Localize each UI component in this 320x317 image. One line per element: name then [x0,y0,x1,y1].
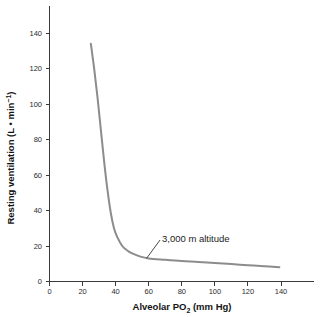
x-axis-ticks: 0 20 40 60 80 100 120 140 [47,282,287,297]
y-axis-ticks: 0 20 40 60 80 100 120 140 [29,29,49,287]
x-axis-title-main: Alveolar PO [133,301,187,312]
y-tick-label: 60 [34,171,42,180]
x-tick-label: 60 [145,287,153,296]
y-axis-title-superscript: −1 [5,95,12,103]
ventilation-po2-chart: Resting ventilation (L • min−1) 0 20 40 … [0,0,320,317]
y-axis-title: Resting ventilation (L • min−1) [5,91,16,224]
x-axis-title-tail: (mm Hg) [190,301,231,312]
x-tick-label: 0 [47,287,51,296]
x-tick-label: 120 [242,287,255,296]
y-tick-label: 0 [38,277,42,286]
x-tick-label: 100 [209,287,222,296]
x-axis-title: Alveolar PO2 (mm Hg) [133,301,232,314]
y-tick-label: 100 [29,100,42,109]
y-tick-label: 40 [34,206,42,215]
x-tick-label: 40 [111,287,119,296]
y-tick-label: 140 [29,29,42,38]
annotation-label-altitude: 3,000 m altitude [162,233,230,244]
x-tick-label: 20 [78,287,86,296]
y-axis-title-tail: ) [5,91,16,94]
y-tick-label: 80 [34,135,42,144]
chart-figure: Resting ventilation (L • min−1) 0 20 40 … [0,0,320,317]
y-tick-label: 20 [34,242,42,251]
annotation-leader-line [147,240,161,259]
y-axis-title-main: Resting ventilation (L • min [5,102,16,224]
x-tick-label: 80 [178,287,186,296]
y-tick-label: 120 [29,64,42,73]
x-tick-label: 140 [275,287,288,296]
